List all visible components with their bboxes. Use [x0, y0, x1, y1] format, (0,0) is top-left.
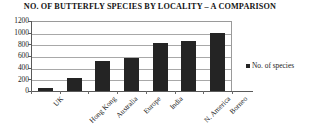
- square-marker-icon: [246, 64, 250, 68]
- x-axis-tick-label: India: [169, 95, 185, 111]
- chart-title: NO. OF BUTTERFLY SPECIES BY LOCALITY – A…: [0, 2, 300, 11]
- gridline: [31, 34, 231, 35]
- x-axis-tick-label: Australia: [115, 95, 140, 120]
- x-axis-tick-mark: [146, 91, 147, 94]
- y-axis-tick-label: 1200: [1, 17, 29, 24]
- bar: [67, 78, 82, 91]
- x-axis-tick-mark: [60, 91, 61, 94]
- x-axis-tick-label: UK: [52, 95, 65, 108]
- x-axis-tick-label: Europe: [142, 95, 163, 116]
- y-axis-tick-label: 1000: [1, 29, 29, 36]
- bar: [181, 41, 196, 91]
- bar: [153, 43, 168, 91]
- plot-area: [31, 21, 232, 91]
- y-axis-tick-label: 800: [1, 41, 29, 48]
- x-axis-line: [31, 91, 253, 92]
- legend-label: No. of species: [252, 62, 294, 70]
- y-axis-tick-label: 600: [1, 52, 29, 59]
- y-axis-line: [31, 21, 32, 91]
- gridline: [31, 45, 231, 46]
- bar: [95, 61, 110, 91]
- x-axis-tick-mark: [175, 91, 176, 94]
- y-axis-tick-label: 200: [1, 76, 29, 83]
- x-axis-tick-label: Hong Kong: [88, 95, 118, 125]
- y-axis-tick-label: 0: [1, 87, 29, 94]
- x-axis-tick-mark: [88, 91, 89, 94]
- legend: No. of species: [246, 62, 294, 70]
- bar-chart: NO. OF BUTTERFLY SPECIES BY LOCALITY – A…: [0, 0, 323, 128]
- y-axis-tick-label: 400: [1, 64, 29, 71]
- x-axis-tick-mark: [232, 91, 233, 94]
- x-axis-tick-mark: [117, 91, 118, 94]
- x-axis-tick-mark: [203, 91, 204, 94]
- bar: [210, 33, 225, 91]
- bar: [124, 58, 139, 91]
- x-axis-tick-mark: [31, 91, 32, 94]
- y-axis: 020040060080010001200: [0, 0, 29, 128]
